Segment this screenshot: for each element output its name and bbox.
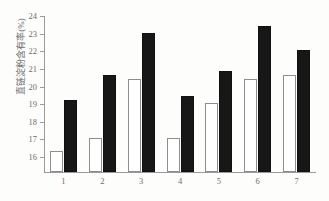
bar-filled — [64, 100, 77, 172]
y-tick-label: 19 — [29, 99, 38, 109]
bar-groups — [44, 16, 316, 172]
bar-open — [205, 103, 218, 172]
bar-group — [238, 16, 277, 172]
y-tick-label: 21 — [29, 64, 38, 74]
y-tick-label: 18 — [29, 117, 38, 127]
bar-open — [167, 138, 180, 172]
bar-open — [244, 79, 257, 172]
bar-group — [83, 16, 122, 172]
bar-chart: 直链淀粉含有率(%) 242322212019181716 1234567 — [0, 0, 329, 201]
x-tick-label: 2 — [83, 176, 122, 186]
bar-filled — [258, 26, 271, 172]
x-tick-label: 3 — [122, 176, 161, 186]
x-axis-tick-labels: 1234567 — [44, 176, 316, 186]
plot-area: 242322212019181716 — [44, 16, 316, 173]
y-tick-label: 22 — [29, 46, 38, 56]
x-tick-label: 5 — [199, 176, 238, 186]
bar-group — [277, 16, 316, 172]
y-tick-label: 24 — [29, 11, 38, 21]
y-tick-label: 16 — [29, 152, 38, 162]
bar-filled — [142, 33, 155, 172]
bar-open — [283, 75, 296, 172]
bar-group — [199, 16, 238, 172]
y-tick-label: 23 — [29, 29, 38, 39]
x-axis-line — [44, 172, 316, 173]
bar-filled — [297, 50, 310, 172]
bar-group — [44, 16, 83, 172]
bar-group — [161, 16, 200, 172]
y-tick-label: 20 — [29, 82, 38, 92]
bar-open — [89, 138, 102, 172]
x-tick-label: 4 — [161, 176, 200, 186]
x-tick-label: 1 — [44, 176, 83, 186]
bar-open — [50, 151, 63, 172]
y-axis-title: 直链淀粉含有率(%) — [14, 0, 27, 127]
bar-open — [128, 79, 141, 172]
bar-filled — [103, 75, 116, 172]
x-tick-label: 6 — [238, 176, 277, 186]
bar-filled — [219, 71, 232, 172]
bar-group — [122, 16, 161, 172]
x-tick-label: 7 — [277, 176, 316, 186]
y-tick-label: 17 — [29, 134, 38, 144]
bar-filled — [181, 96, 194, 172]
